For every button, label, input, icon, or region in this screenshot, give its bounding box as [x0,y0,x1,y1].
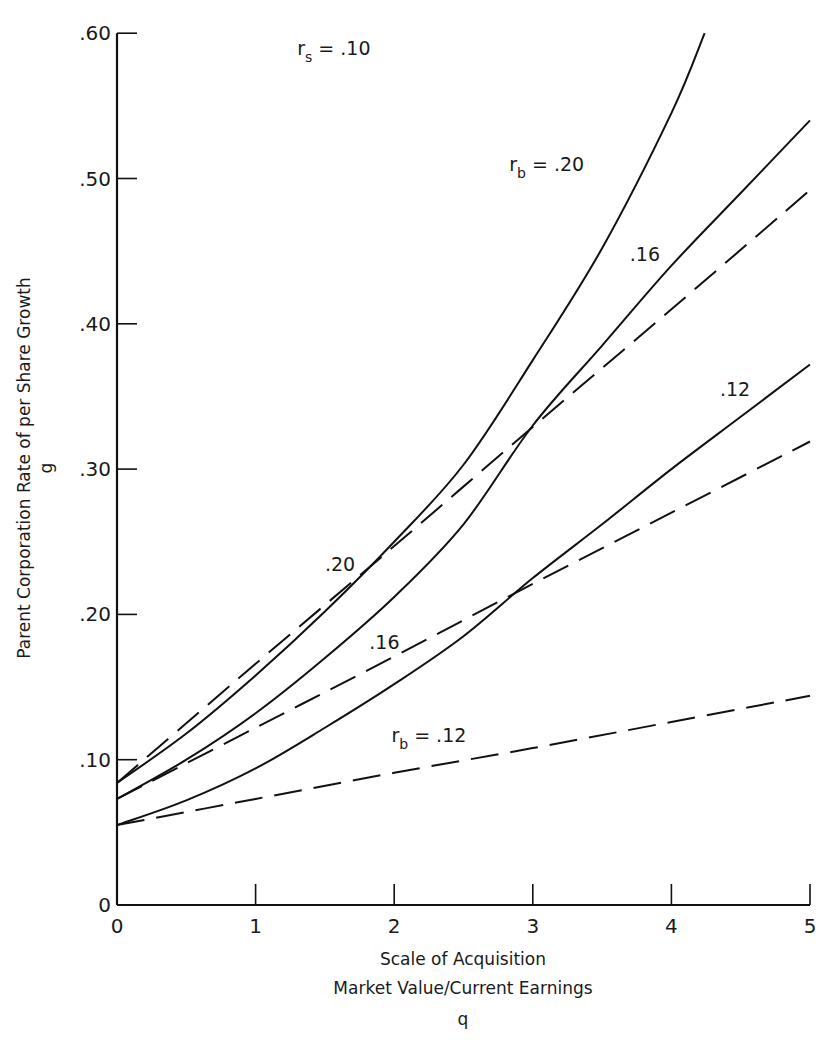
y-tick-label: .30 [79,457,111,481]
x-tick-label: 3 [526,914,539,938]
x-tick-label: 5 [804,914,817,938]
x-axis-subtitle: Market Value/Current Earnings [333,978,592,998]
series-line [117,33,705,783]
y-axis-symbol: g [36,463,56,474]
curve-labels: rs = .10rb = .20.16.12.20.16rb = .12 [297,37,750,752]
curve-label: rb = .12 [391,724,466,752]
line-chart: 0.10.20.30.40.50.60012345 rs = .10rb = .… [0,0,838,1047]
y-tick-label: .50 [79,167,111,191]
axes: 0.10.20.30.40.50.60012345 [79,21,816,938]
curve-label: rb = .20 [509,153,584,181]
x-axis-title: Scale of Acquisition [380,949,546,969]
y-axis-title: Parent Corporation Rate of per Share Gro… [14,277,34,658]
series-line [117,364,810,825]
x-axis-symbol: q [458,1009,469,1029]
x-tick-label: 0 [111,914,124,938]
x-tick-label: 4 [665,914,678,938]
curve-label: .16 [630,243,660,265]
curve-label: .16 [369,631,399,653]
curve-label: rs = .10 [297,37,370,65]
curves [117,33,810,825]
y-tick-label: 0 [98,893,111,917]
y-tick-label: .10 [79,748,111,772]
series-line [117,190,810,783]
x-tick-label: 1 [249,914,262,938]
x-tick-label: 2 [388,914,401,938]
y-tick-label: .40 [79,312,111,336]
series-line [117,120,810,799]
y-tick-label: .60 [79,21,111,45]
curve-label: .12 [720,378,750,400]
curve-label: .20 [325,553,355,575]
series-line [117,696,810,825]
y-tick-label: .20 [79,602,111,626]
